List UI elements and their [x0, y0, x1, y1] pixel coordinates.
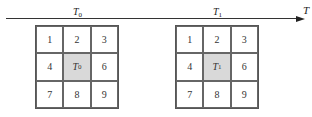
grid-cell-9: 9: [91, 81, 118, 108]
grid-cell-center: T1: [203, 53, 230, 80]
arrow-right-icon: [296, 16, 305, 22]
time-label-subscript: 0: [79, 11, 83, 19]
grid-cell-6: 6: [91, 53, 118, 80]
grid-cell-8: 8: [203, 81, 230, 108]
grid-cell-1: 1: [36, 26, 63, 53]
grid-cell-center: T0: [63, 53, 90, 80]
grid-cell-6: 6: [231, 53, 258, 80]
grid-cell-7: 7: [36, 81, 63, 108]
center-label-subscript: 1: [218, 63, 222, 71]
grid-cell-4: 4: [176, 53, 203, 80]
time-label-t1: T1: [213, 6, 222, 19]
time-label-t0: T0: [73, 6, 82, 19]
time-axis-label: T: [303, 4, 309, 16]
center-label-subscript: 0: [78, 63, 82, 71]
grid-cell-7: 7: [176, 81, 203, 108]
grid-cell-8: 8: [63, 81, 90, 108]
grid-cell-3: 3: [231, 26, 258, 53]
grid-cell-3: 3: [91, 26, 118, 53]
grid-cell-2: 2: [203, 26, 230, 53]
grid-cell-4: 4: [36, 53, 63, 80]
grid-cell-9: 9: [231, 81, 258, 108]
grid-cell-2: 2: [63, 26, 90, 53]
neighborhood-grid-t0: 1 2 3 4 T0 6 7 8 9: [35, 25, 119, 109]
time-label-subscript: 1: [219, 11, 223, 19]
neighborhood-grid-t1: 1 2 3 4 T1 6 7 8 9: [175, 25, 259, 109]
grid-cell-1: 1: [176, 26, 203, 53]
time-axis-line: [6, 18, 298, 19]
